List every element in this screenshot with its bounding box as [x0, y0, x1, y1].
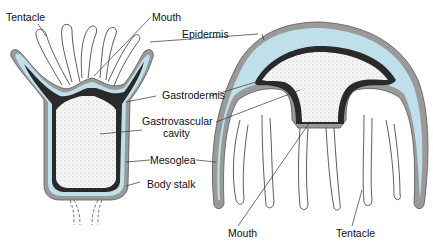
- label-mouth-medusa: Mouth: [228, 227, 257, 239]
- medusa-tentacles: [233, 115, 400, 210]
- label-gv-cavity-1: Gastrovascular: [142, 115, 213, 127]
- label-tentacle-polyp: Tentacle: [6, 11, 45, 23]
- label-gastrodermis: Gastrodermis: [162, 89, 225, 101]
- label-epidermis: Epidermis: [182, 28, 229, 40]
- label-body-stalk: Body stalk: [147, 178, 195, 190]
- label-gv-cavity-2: cavity: [163, 127, 190, 139]
- label-mesoglea: Mesoglea: [150, 154, 196, 166]
- polyp-stalk: [70, 200, 102, 225]
- label-tentacle-medusa: Tentacle: [336, 227, 375, 239]
- polyp-tentacles: [36, 24, 140, 86]
- label-mouth-polyp: Mouth: [152, 11, 181, 23]
- cnidarian-diagram: Tentacle Mouth Epidermis Gastrodermis Ga…: [0, 0, 433, 241]
